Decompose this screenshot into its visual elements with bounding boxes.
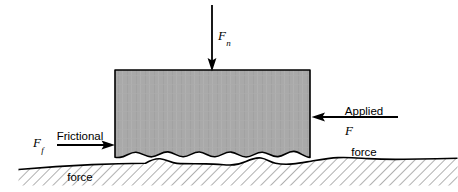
applied-force-label-line2: force xyxy=(318,146,410,160)
normal-force-arrow xyxy=(208,5,217,72)
friction-force-diagram: Fn Applied force F Frictional force Ff xyxy=(0,0,458,192)
normal-force-label: Fn xyxy=(218,28,230,46)
applied-force-label-line1: Applied xyxy=(318,105,410,119)
applied-force-symbol-base: F xyxy=(345,123,353,138)
frictional-force-label: Frictional force xyxy=(44,103,116,192)
frictional-force-label-line1: Frictional xyxy=(44,130,116,144)
applied-force-label: Applied force xyxy=(318,78,410,187)
block-body xyxy=(115,70,310,158)
normal-force-symbol-base: F xyxy=(218,28,226,43)
frictional-force-symbol: Ff xyxy=(33,135,43,153)
normal-force-symbol-subscript: n xyxy=(226,38,231,48)
frictional-force-symbol-subscript: f xyxy=(41,145,44,155)
applied-force-symbol: F xyxy=(345,123,353,141)
frictional-force-symbol-base: F xyxy=(33,135,41,150)
frictional-force-label-line2: force xyxy=(44,171,116,185)
block-group xyxy=(115,70,310,158)
